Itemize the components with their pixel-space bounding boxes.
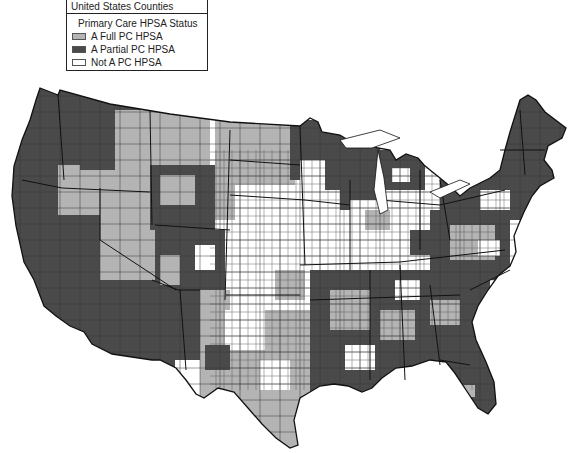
legend-label: A Full PC HPSA — [91, 31, 163, 42]
legend-item-not-hpsa: Not A PC HPSA — [67, 56, 207, 69]
full-hpsa-swatch — [72, 33, 86, 40]
map-legend: United States Counties Primary Care HPSA… — [66, 0, 208, 71]
legend-item-partial-hpsa: A Partial PC HPSA — [67, 43, 207, 56]
lake-superior — [340, 130, 400, 148]
legend-subtitle: Primary Care HPSA Status — [67, 17, 207, 30]
legend-title: United States Counties — [67, 0, 207, 14]
legend-item-full-hpsa: A Full PC HPSA — [67, 30, 207, 43]
legend-label: Not A PC HPSA — [91, 57, 162, 68]
county-fills — [0, 80, 579, 453]
partial-hpsa-swatch — [72, 46, 86, 53]
not-hpsa-swatch — [72, 59, 86, 66]
legend-label: A Partial PC HPSA — [91, 44, 175, 55]
